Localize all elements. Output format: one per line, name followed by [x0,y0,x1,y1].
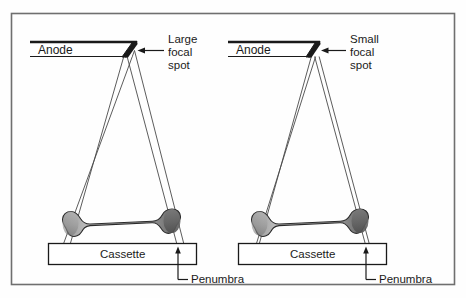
right-cassette: Cassette [239,244,387,265]
right-bone-knob-right [352,209,369,233]
left-cassette: Cassette [49,244,197,265]
left-anode: Anode [30,41,138,57]
left-bone-knob-left [63,212,79,236]
right-penumbra-label: Penumbra [379,273,433,285]
right-anode: Anode [228,41,321,57]
right-focal-spot-label-line3: spot [350,59,373,71]
left-focal-spot-label-line3: spot [168,59,191,71]
right-bone-knob-left [252,212,268,236]
right-anode-label: Anode [236,43,271,57]
right-cassette-label: Cassette [290,248,335,260]
left-cassette-label: Cassette [100,248,145,260]
left-focal-spot-label-line1: Large [168,33,197,45]
left-anode-label: Anode [38,43,73,57]
figure-container: Anode Large focal spot Cassette Penu [0,0,466,298]
left-focal-spot-label-line2: focal [168,46,192,58]
right-focal-spot-label-line2: focal [350,46,374,58]
right-focal-spot-label-line1: Small [350,33,379,45]
left-penumbra-label: Penumbra [191,273,245,285]
focal-spot-penumbra-diagram: Anode Large focal spot Cassette Penu [0,0,466,298]
left-bone-knob-right [164,209,181,233]
